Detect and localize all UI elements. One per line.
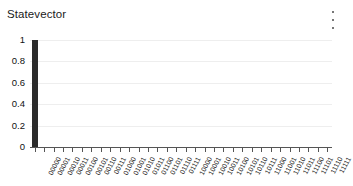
x-tick [327,148,328,152]
x-tick [280,148,281,152]
x-tick [148,148,149,152]
x-tick [120,148,121,152]
x-tick [271,148,272,152]
x-tick [72,148,73,152]
x-tick [139,148,140,152]
x-tick [318,148,319,152]
y-tick-label: 0.4 [12,99,25,109]
x-tick [195,148,196,152]
x-tick [252,148,253,152]
x-tick [299,148,300,152]
x-tick [82,148,83,152]
x-tick [44,148,45,152]
chart-header: Statevector [0,0,344,30]
x-tick [308,148,309,152]
x-tick [214,148,215,152]
kebab-dot-3 [332,27,334,29]
x-tick [91,148,92,152]
plot-container: 00.20.40.60.81 0000000001000100001100100… [0,30,344,186]
plot-area [30,40,332,147]
page-title: Statevector [7,7,66,21]
y-tick-label: 0.8 [12,56,25,66]
kebab-dot-2 [332,19,334,21]
x-axis-tick-labels: 0000000001000100001100100001010011000111… [30,153,332,186]
x-tick [101,148,102,152]
x-tick [186,148,187,152]
bar [32,40,38,147]
kebab-menu-icon[interactable] [327,10,339,30]
x-tick [223,148,224,152]
x-tick [176,148,177,152]
x-tick [205,148,206,152]
y-tick-label: 1 [20,35,25,45]
x-tick [167,148,168,152]
x-tick [290,148,291,152]
x-tick [63,148,64,152]
y-axis-tick-labels: 00.20.40.60.81 [0,30,28,147]
kebab-dot-1 [332,11,334,13]
y-tick-label: 0.2 [12,121,25,131]
y-tick-label: 0.6 [12,78,25,88]
y-tick-label: 0 [20,142,25,152]
x-tick [35,148,36,152]
x-tick [233,148,234,152]
x-tick [157,148,158,152]
x-tick [129,148,130,152]
x-tick [261,148,262,152]
x-tick [110,148,111,152]
bar-series [30,40,332,147]
x-tick [54,148,55,152]
x-tick [242,148,243,152]
